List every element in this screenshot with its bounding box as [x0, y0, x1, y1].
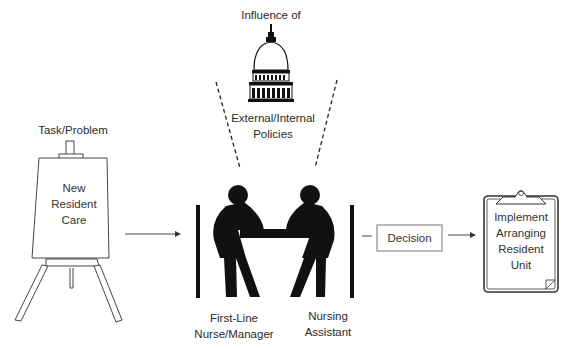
task-heading: Task/Problem	[28, 123, 118, 137]
decision-label: Decision	[377, 231, 442, 246]
outcome-line2: Arranging	[487, 226, 555, 241]
task-line2: Resident	[40, 197, 108, 212]
influence-subtitle-line1: External/Internal	[225, 111, 321, 125]
task-line1: New	[40, 181, 108, 196]
outcome-line4: Unit	[487, 258, 555, 273]
capitol-building-icon	[248, 24, 294, 102]
two-people-at-table-icon	[196, 185, 354, 298]
right-person-label-line1: Nursing	[293, 309, 363, 323]
outcome-line3: Resident	[487, 242, 555, 257]
left-person-label-line2: Nurse/Manager	[190, 327, 278, 341]
right-person-label-line2: Assistant	[293, 325, 363, 339]
influence-title: Influence of	[230, 8, 312, 22]
task-line3: Care	[40, 213, 108, 228]
arrow-to-meeting	[125, 231, 181, 237]
diagram-canvas	[0, 0, 576, 349]
influence-subtitle-line2: Policies	[225, 127, 321, 141]
outcome-line1: Implement	[487, 210, 555, 225]
easel-icon	[15, 141, 122, 322]
arrow-to-outcome	[448, 232, 476, 238]
left-person-label-line1: First-Line	[190, 311, 278, 325]
